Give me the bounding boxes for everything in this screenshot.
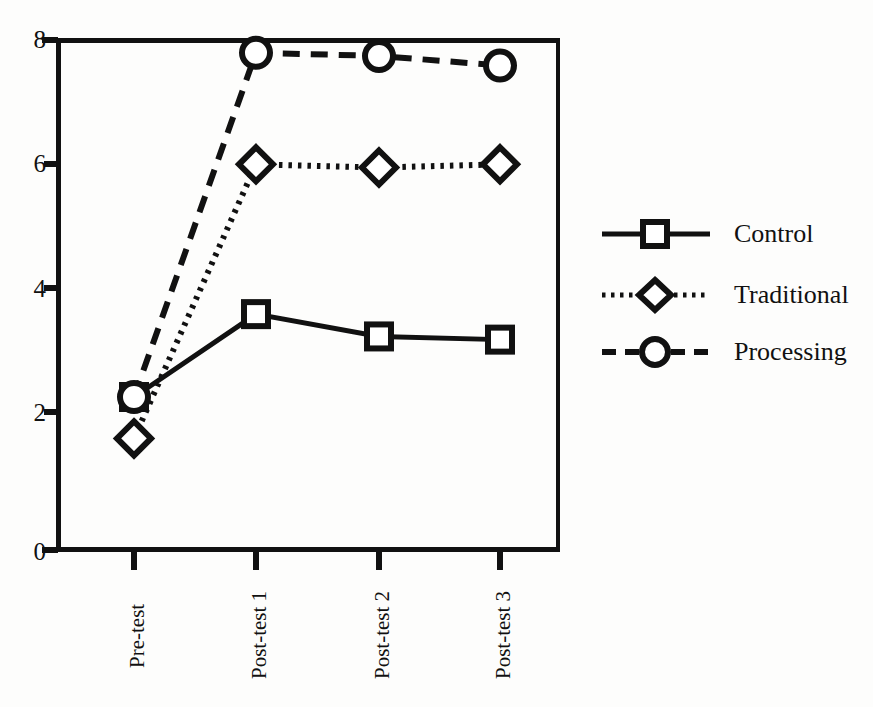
circle-marker-post-test-3 — [486, 52, 514, 80]
diamond-marker-post-test-3 — [483, 147, 517, 181]
legend-sample-traditional — [600, 275, 712, 315]
legend-sample-control — [600, 214, 712, 254]
series-line-control — [134, 314, 500, 397]
chart-legend: Control Traditional Processing — [600, 208, 870, 378]
legend-item-traditional[interactable]: Traditional — [600, 275, 870, 315]
square-marker-post-test-1 — [244, 302, 268, 326]
legend-item-control[interactable]: Control — [600, 214, 870, 254]
series-processing — [120, 39, 514, 411]
chart-page: 8 6 4 2 0 Pre-test Post-test 1 Post-test… — [0, 0, 873, 707]
square-marker — [643, 222, 667, 246]
diamond-marker-post-test-1 — [239, 147, 273, 181]
diamond-marker-pre-test — [117, 421, 151, 455]
legend-sample-processing — [600, 332, 712, 372]
series-control — [122, 302, 512, 409]
y-axis-ticks — [42, 40, 58, 550]
series-line-processing — [134, 53, 500, 397]
circle-marker-pre-test — [120, 383, 148, 411]
legend-label-processing: Processing — [734, 338, 847, 366]
legend-item-processing[interactable]: Processing — [600, 332, 870, 372]
series-line-traditional — [134, 164, 500, 438]
square-marker-post-test-2 — [367, 324, 391, 348]
square-marker-post-test-3 — [488, 328, 512, 352]
diamond-marker-post-test-2 — [362, 151, 396, 185]
series-layer — [117, 39, 517, 456]
series-traditional — [117, 147, 517, 455]
circle-marker-post-test-1 — [242, 39, 270, 67]
legend-label-traditional: Traditional — [734, 281, 849, 309]
x-axis-ticks — [134, 552, 500, 570]
diamond-marker — [639, 280, 671, 310]
circle-marker-post-test-2 — [365, 42, 393, 70]
circle-marker — [642, 339, 668, 365]
legend-label-control: Control — [734, 220, 813, 248]
